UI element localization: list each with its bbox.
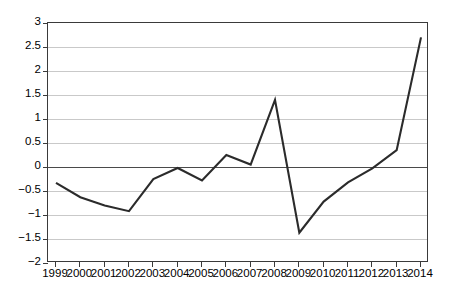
x-axis-label: 2009 — [286, 268, 312, 280]
y-axis-label-group: 32.521.510.50−0.5−1−1.5−2 — [0, 22, 41, 262]
y-axis-label: 1.5 — [7, 88, 41, 100]
x-axis-label-group: 1999200020012002200320042005200620072008… — [0, 268, 452, 286]
x-axis-label: 2014 — [407, 268, 433, 280]
x-axis-label: 2001 — [91, 268, 117, 280]
line-chart: 32.521.510.50−0.5−1−1.5−2 19992000200120… — [0, 0, 452, 289]
x-axis-label: 2011 — [335, 268, 360, 280]
y-axis-label: 0.5 — [7, 136, 41, 148]
plot-area — [47, 22, 428, 262]
y-axis-label: −0.5 — [7, 184, 41, 196]
y-axis-label: −1 — [7, 208, 41, 220]
x-axis-label: 2002 — [115, 268, 141, 280]
x-axis-label: 2008 — [261, 268, 287, 280]
x-axis-label: 2006 — [213, 268, 239, 280]
series-line — [56, 37, 421, 232]
x-axis-label: 1999 — [42, 268, 68, 280]
y-axis-label: 3 — [7, 16, 41, 28]
y-axis-label: −1.5 — [7, 232, 41, 244]
y-axis-label: −2 — [7, 256, 41, 268]
y-axis-label: 1 — [7, 112, 41, 124]
x-axis-label: 2012 — [359, 268, 385, 280]
x-axis-label: 2010 — [310, 268, 336, 280]
x-axis-label: 2000 — [67, 268, 93, 280]
x-axis-label: 2005 — [188, 268, 214, 280]
y-axis-label: 0 — [7, 160, 41, 172]
data-series-group — [48, 23, 429, 263]
y-axis-label: 2.5 — [7, 40, 41, 52]
x-axis-label: 2013 — [383, 268, 409, 280]
y-axis-label: 2 — [7, 64, 41, 76]
x-axis-label: 2007 — [237, 268, 263, 280]
x-axis-label: 2003 — [140, 268, 166, 280]
x-axis-label: 2004 — [164, 268, 190, 280]
